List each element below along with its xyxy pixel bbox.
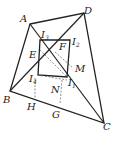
dashed-I1-G (60, 80, 62, 104)
label-I1: I1 (67, 77, 76, 89)
label-H: H (26, 101, 36, 112)
label-I3: I3 (40, 29, 49, 41)
label-C: C (103, 121, 111, 132)
label-M: M (74, 63, 86, 74)
label-D: D (83, 5, 92, 16)
dashed-E-I1 (40, 50, 67, 77)
label-N: N (50, 84, 61, 95)
label-A: A (19, 13, 27, 24)
quadrilateral-ABCD (10, 13, 104, 123)
geometry-diagram: A D B C E F M N H G I3 I2 I1 I4 (0, 0, 116, 141)
label-B: B (2, 94, 10, 105)
label-I4: I4 (28, 73, 37, 85)
diagram-canvas: A D B C E F M N H G I3 I2 I1 I4 (0, 0, 116, 141)
label-G: G (52, 109, 60, 120)
label-I2: I2 (71, 36, 80, 48)
label-E: E (28, 49, 37, 60)
label-F: F (58, 41, 67, 52)
